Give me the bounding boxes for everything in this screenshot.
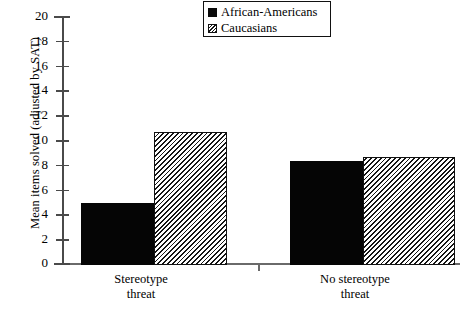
chart-legend: African-Americans Caucasians: [203, 1, 331, 37]
y-tick-label-0: 0: [10, 256, 48, 269]
y-tick-label-6: 6: [10, 183, 48, 196]
legend-item-african-americans: African-Americans: [208, 4, 327, 20]
x-axis-label-no-stereotype-threat: No stereotype threat: [290, 272, 420, 301]
y-tick-label-8: 8: [10, 158, 48, 171]
y-tick-label-16: 16: [10, 59, 48, 72]
y-tick-label-18: 18: [10, 34, 48, 47]
hatched-square-icon: [208, 24, 217, 33]
y-tick-label-2: 2: [10, 232, 48, 245]
bar-african-americans-no-stereotype-threat: [290, 161, 363, 265]
y-tick-label-10: 10: [10, 133, 48, 146]
legend-item-caucasians: Caucasians: [208, 20, 327, 36]
plot-area: [62, 16, 460, 265]
legend-label-caucasians: Caucasians: [221, 22, 277, 35]
bar-african-americans-stereotype-threat: [81, 203, 154, 265]
x-axis-label-line1: No stereotype: [290, 272, 420, 287]
x-axis-label-line2: threat: [81, 287, 201, 302]
legend-label-african-americans: African-Americans: [221, 6, 317, 19]
solid-square-icon: [208, 8, 217, 17]
x-axis-label-line1: Stereotype: [81, 272, 201, 287]
y-tick-label-4: 4: [10, 207, 48, 220]
bar-caucasians-no-stereotype-threat: [363, 157, 455, 265]
x-axis-label-stereotype-threat: Stereotype threat: [81, 272, 201, 301]
y-tick-label-20: 20: [10, 9, 48, 22]
y-tick-label-14: 14: [10, 83, 48, 96]
y-tick-label-12: 12: [10, 108, 48, 121]
bar-caucasians-stereotype-threat: [154, 132, 227, 265]
x-axis-label-line2: threat: [290, 287, 420, 302]
bar-chart: Mean items solved (adjusted by SAT) 20 1…: [0, 0, 470, 309]
